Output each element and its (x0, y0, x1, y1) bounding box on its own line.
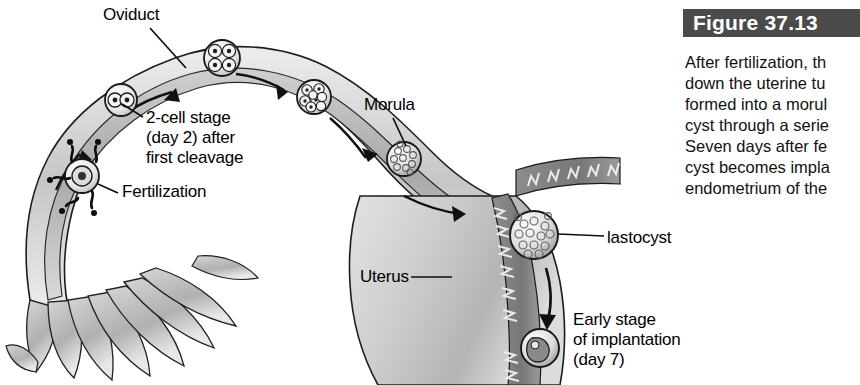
figure-caption-panel: Figure 37.13 After fertilization, th dow… (683, 0, 860, 385)
embryo-morula (387, 141, 421, 176)
caption-line: cyst becomes impla (685, 157, 860, 178)
figure-number-label: Figure 37.13 (693, 11, 818, 35)
label-fertilization: Fertilization (122, 182, 206, 202)
leader-fertilization (98, 184, 118, 193)
label-morula: Morula (364, 95, 415, 115)
figure-caption-text: After fertilization, th down the uterine… (685, 52, 860, 199)
embryo-8-cell (297, 80, 331, 114)
label-uterus: Uterus (360, 267, 409, 287)
caption-line: cyst through a serie (685, 115, 860, 136)
caption-line: down the uterine tu (685, 73, 860, 94)
label-blastocyst: lastocyst (607, 228, 671, 248)
figure-container: Oviduct 2-cell stage (day 2) after first… (0, 0, 860, 385)
embryo-4-cell (204, 40, 240, 76)
caption-line: Seven days after fe (685, 136, 860, 157)
leader-blastocyst (558, 234, 604, 236)
anatomical-diagram: Oviduct 2-cell stage (day 2) after first… (0, 0, 680, 385)
caption-line: formed into a morul (685, 94, 860, 115)
caption-line: After fertilization, th (685, 52, 860, 73)
embryo-implanting (521, 329, 559, 367)
embryo-blastocyst (510, 211, 558, 259)
caption-line: endometrium of the (685, 178, 860, 199)
label-two-cell-stage: 2-cell stage (day 2) after first cleavag… (146, 108, 243, 168)
label-early-implantation: Early stage of implantation (day 7) (573, 310, 681, 370)
label-oviduct: Oviduct (103, 5, 159, 25)
